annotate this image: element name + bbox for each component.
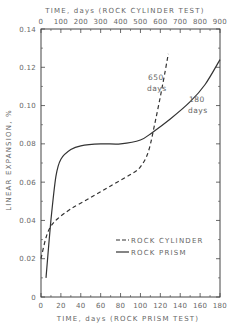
legend-label-cylinder: ROCK CYLINDER [131,237,204,245]
top-x-tick-label: 100 [54,18,68,26]
y-tick-label: 0.04 [19,217,36,225]
x-tick-label: 160 [193,302,207,310]
bottom-axis-title: TIME, days (ROCK PRISM TEST) [56,315,199,323]
y-tick-label: 0 [31,294,36,302]
top-x-tick-label: 900 [213,18,227,26]
top-axis-title: TIME, days (ROCK CYLINDER TEST) [44,7,204,15]
bottom-axis-ticks: 020406080100120140160180 [39,293,228,310]
top-x-tick-label: 200 [74,18,88,26]
top-x-tick-label: 0 [39,18,44,26]
y-axis-title: LINEAR EXPANSION, % [5,109,13,211]
top-x-tick-label: 700 [173,18,187,26]
x-tick-label: 20 [56,302,66,310]
annotation-180-days-value: 180 [189,95,205,104]
x-tick-label: 40 [76,302,86,310]
x-tick-label: 120 [153,302,167,310]
top-x-tick-label: 400 [113,18,127,26]
annotation-650-days-unit: days [147,84,167,93]
top-axis-ticks: 0100200300400500600700800900 [39,18,228,33]
y-tick-label: 0.12 [19,64,36,72]
x-tick-label: 0 [39,302,44,310]
y-tick-label: 0.14 [19,26,36,34]
rock-prism-line [46,60,220,278]
top-x-tick-label: 800 [193,18,207,26]
legend: ROCK CYLINDER ROCK PRISM [116,237,204,257]
expansion-chart: TIME, days (ROCK CYLINDER TEST) 01002003… [0,0,230,326]
x-tick-label: 180 [213,302,227,310]
annotation-180-days-unit: days [188,106,208,115]
x-tick-label: 100 [133,302,147,310]
legend-label-prism: ROCK PRISM [131,249,187,257]
top-x-tick-label: 300 [94,18,108,26]
y-tick-label: 0.10 [19,102,36,110]
y-tick-label: 0.08 [19,140,36,148]
x-tick-label: 140 [173,302,187,310]
x-tick-label: 60 [96,302,106,310]
top-x-tick-label: 600 [153,18,167,26]
top-x-tick-label: 500 [133,18,147,26]
x-tick-label: 80 [116,302,126,310]
annotation-650-days-value: 650 [148,73,164,82]
y-axis-ticks: 00.020.040.060.080.100.120.14 [19,26,220,302]
y-tick-label: 0.06 [19,179,36,187]
y-tick-label: 0.02 [19,255,36,263]
